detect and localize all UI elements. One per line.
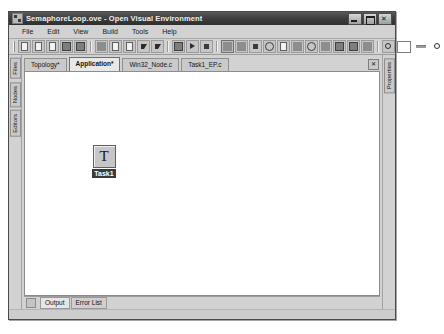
pen-tool-icon[interactable]	[361, 40, 374, 53]
toolbar-separator-3	[216, 41, 218, 52]
channel-tool-icon[interactable]	[319, 40, 332, 53]
editor-area: Topology* Application* Win32_Node.c Task…	[22, 55, 382, 309]
menu-bar: File Edit View Build Tools Help	[9, 25, 395, 39]
zoom-out-icon[interactable]	[431, 40, 444, 53]
application-window: SemaphoreLoop.ove - Open Visual Environm…	[8, 11, 396, 320]
bottom-panel-icon	[26, 298, 36, 308]
tab-output[interactable]: Output	[40, 297, 70, 309]
menu-item-file[interactable]: File	[15, 26, 40, 38]
save-icon[interactable]	[60, 40, 73, 53]
save-all-icon[interactable]	[74, 40, 87, 53]
node-tool-icon[interactable]	[249, 40, 262, 53]
copy-icon[interactable]	[109, 40, 122, 53]
pointer-tool-icon[interactable]	[221, 40, 234, 53]
task-node-label: Task1	[92, 169, 115, 178]
tab-error-list[interactable]: Error List	[71, 297, 107, 309]
window-title: SemaphoreLoop.ove - Open Visual Environm…	[26, 12, 202, 25]
stop-icon[interactable]	[200, 40, 213, 53]
title-bar[interactable]: SemaphoreLoop.ove - Open Visual Environm…	[9, 12, 395, 25]
redo-icon[interactable]	[151, 40, 164, 53]
toolbar-grip[interactable]	[13, 41, 15, 52]
tab-topology[interactable]: Topology*	[24, 58, 67, 71]
table-tool-icon[interactable]	[277, 40, 290, 53]
right-panel-tabs: Properties	[382, 55, 395, 309]
zoom-tool-icon[interactable]	[382, 40, 395, 53]
menu-item-tools[interactable]: Tools	[125, 26, 155, 38]
document-tab-bar: Topology* Application* Win32_Node.c Task…	[24, 57, 380, 72]
toolbar-separator	[90, 41, 92, 52]
sidebar-item-editors[interactable]: Editors	[10, 110, 21, 137]
zoom-slider[interactable]	[416, 45, 426, 48]
menu-item-view[interactable]: View	[66, 26, 95, 38]
undo-icon[interactable]	[137, 40, 150, 53]
toolbar	[9, 39, 395, 55]
close-tab-icon[interactable]: ✕	[368, 59, 379, 70]
left-panel-tabs: Files Nodes Editors	[9, 55, 22, 309]
status-bar	[9, 309, 395, 319]
bottom-panel-tab-bar: Output Error List	[24, 296, 380, 309]
canvas-node-task1[interactable]: T Task1	[89, 145, 119, 178]
connect-tool-icon[interactable]	[235, 40, 248, 53]
menu-item-edit[interactable]: Edit	[40, 26, 66, 38]
new-project-icon[interactable]	[46, 40, 59, 53]
memory-tool-icon[interactable]	[347, 40, 360, 53]
sidebar-item-nodes[interactable]: Nodes	[10, 82, 21, 107]
task-node-glyph: T	[99, 149, 108, 164]
close-button[interactable]	[378, 13, 392, 25]
menu-item-build[interactable]: Build	[95, 26, 125, 38]
tab-application[interactable]: Application*	[69, 57, 121, 71]
maximize-button[interactable]	[363, 13, 377, 25]
toolbar-separator-2	[167, 41, 169, 52]
menu-item-help[interactable]: Help	[155, 26, 183, 38]
cut-icon[interactable]	[95, 40, 108, 53]
new-file-icon[interactable]	[18, 40, 31, 53]
ellipse-tool-icon[interactable]	[263, 40, 276, 53]
run-icon[interactable]	[186, 40, 199, 53]
build-icon[interactable]	[172, 40, 185, 53]
workspace-row: Files Nodes Editors Topology* Applicatio…	[9, 55, 395, 309]
window-controls	[348, 13, 393, 25]
open-folder-icon[interactable]	[32, 40, 45, 53]
minimize-button[interactable]	[348, 13, 362, 25]
semaphore-tool-icon[interactable]	[305, 40, 318, 53]
diagram-canvas[interactable]: T Task1	[24, 72, 380, 296]
link-tool-icon[interactable]	[291, 40, 304, 53]
sidebar-item-files[interactable]: Files	[10, 58, 21, 79]
zoom-value-field[interactable]	[397, 41, 411, 53]
paste-icon[interactable]	[123, 40, 136, 53]
tab-win32-node-c[interactable]: Win32_Node.c	[122, 58, 179, 71]
visual-environment-icon	[12, 13, 23, 24]
task-node-icon: T	[93, 145, 116, 168]
tab-task1-ep-c[interactable]: Task1_EP.c	[181, 58, 228, 71]
toolbar-separator-4	[377, 41, 379, 52]
sidebar-item-properties[interactable]: Properties	[384, 58, 395, 93]
process-tool-icon[interactable]	[333, 40, 346, 53]
